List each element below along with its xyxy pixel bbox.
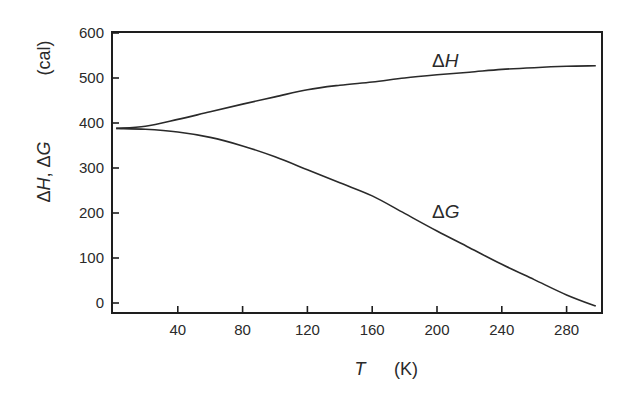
- x-tick-label: 200: [424, 321, 449, 338]
- y-axis-label-symbols: ΔH, ΔG: [34, 141, 54, 202]
- series-line-h: [116, 66, 596, 129]
- x-axis-label-unit: (K): [394, 359, 418, 379]
- series-label-g: ΔG: [432, 201, 459, 222]
- series-labels: ΔHΔG: [432, 50, 459, 222]
- y-tick-label: 0: [96, 294, 104, 311]
- plot-border: [112, 32, 602, 313]
- x-tick-label: 160: [360, 321, 385, 338]
- series-curves: [116, 66, 596, 306]
- series-line-g: [116, 128, 596, 306]
- x-axis-label-symbol: T: [355, 359, 368, 379]
- y-tick-label: 200: [79, 204, 104, 221]
- line-chart: 0100200300400500600 4080120160200240280 …: [0, 0, 629, 394]
- x-tick-label: 240: [489, 321, 514, 338]
- y-tick-label: 300: [79, 159, 104, 176]
- y-tick-label: 400: [79, 114, 104, 131]
- x-tick-label: 280: [554, 321, 579, 338]
- y-axis-label-unit: (cal): [34, 41, 54, 76]
- plot-frame: [112, 32, 602, 313]
- y-tick-label: 600: [79, 24, 104, 41]
- x-tick-label: 120: [295, 321, 320, 338]
- x-tick-label: 40: [169, 321, 186, 338]
- y-tick-label: 100: [79, 249, 104, 266]
- x-tick-label: 80: [234, 321, 251, 338]
- y-axis-unit: (cal): [34, 41, 54, 76]
- series-label-h: ΔH: [432, 50, 459, 71]
- y-tick-label: 500: [79, 69, 104, 86]
- y-axis-label: ΔH, ΔG: [34, 141, 54, 202]
- x-axis-ticks: 4080120160200240280: [169, 306, 579, 338]
